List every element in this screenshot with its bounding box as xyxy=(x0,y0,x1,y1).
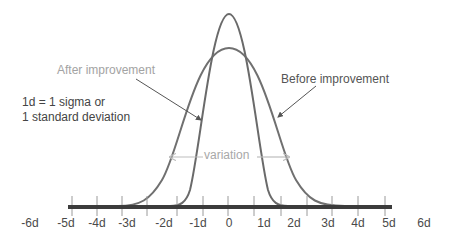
tick-label: 6d xyxy=(417,216,430,230)
after-improvement-label: After improvement xyxy=(57,64,155,76)
sigma-note-line2: 1 standard deviation xyxy=(22,110,130,125)
tick-label: 1d xyxy=(257,216,270,230)
variation-label: variation xyxy=(204,149,249,161)
sigma-note-line1: 1d = 1 sigma or xyxy=(22,95,130,110)
before-arrow xyxy=(278,86,316,117)
tick-label: -4d xyxy=(88,216,105,230)
tick-label: 0 xyxy=(226,216,233,230)
tick-label: 4d xyxy=(351,216,364,230)
tick-label: -5d xyxy=(57,216,74,230)
tick-label: -1d xyxy=(189,216,206,230)
tick-label: -6d xyxy=(21,216,38,230)
tick-label: 2d xyxy=(287,216,300,230)
tick-label: 5d xyxy=(382,216,395,230)
before-improvement-label: Before improvement xyxy=(281,73,389,85)
tick-label: -3d xyxy=(118,216,135,230)
sigma-note: 1d = 1 sigma or 1 standard deviation xyxy=(22,95,130,125)
tick-label: -2d xyxy=(155,216,172,230)
tick-label: 3d xyxy=(321,216,334,230)
